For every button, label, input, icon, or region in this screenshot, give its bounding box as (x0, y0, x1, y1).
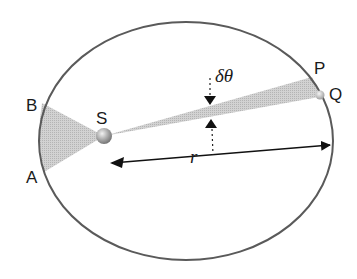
label-b: B (26, 96, 37, 115)
angle-dotted-line-bottom (212, 129, 213, 155)
kepler-orbit-diagram: S B A P Q r δθ (0, 0, 357, 279)
label-sun: S (96, 109, 107, 128)
radius-arrow (112, 145, 330, 163)
angle-arrowhead-bottom (205, 119, 217, 128)
label-p: P (314, 59, 325, 78)
label-a: A (26, 168, 38, 187)
label-q: Q (329, 85, 342, 104)
planet-icon (316, 91, 325, 100)
label-radius: r (190, 146, 198, 167)
radius-arrowhead-left (110, 157, 124, 168)
angle-arrowhead-top (204, 96, 216, 105)
area-wedge-ab (39, 103, 104, 172)
sun-icon (96, 128, 112, 144)
label-angle: δθ (215, 65, 233, 86)
